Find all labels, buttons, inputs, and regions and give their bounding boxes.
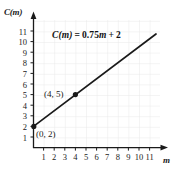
x-tick-label-11: 11 (144, 153, 156, 162)
x-axis-label: m (163, 155, 170, 165)
point-label-4-5: (4, 5) (44, 89, 64, 99)
point-label-0-2: (0, 2) (36, 129, 56, 139)
linear-function-graph: C(m) m C(m)=0.75m+2 (0, 2) (4, 5) 1 2 3 … (0, 0, 177, 175)
y-tick-label-7: 7 (13, 70, 27, 79)
y-tick-label-3: 3 (13, 112, 27, 121)
y-tick-label-10: 10 (13, 38, 27, 47)
y-tick-label-4: 4 (13, 102, 27, 111)
y-tick-label-5: 5 (13, 91, 27, 100)
equation-slope: 0.75 (82, 30, 99, 40)
y-tick-label-8: 8 (13, 59, 27, 68)
equation-intercept: 2 (116, 30, 121, 40)
y-tick-label-2: 2 (13, 123, 27, 132)
y-tick-label-6: 6 (13, 81, 27, 90)
y-tick-label-9: 9 (13, 49, 27, 58)
y-tick-label-1: 1 (13, 134, 27, 143)
data-point-4-5 (73, 92, 78, 97)
equation-function-name: C(m) (52, 30, 72, 40)
equation-plus: + (109, 30, 115, 40)
equation-equals: = (74, 30, 80, 40)
y-tick-label-11: 11 (13, 28, 27, 37)
equation-variable: m (99, 30, 107, 40)
equation-annotation: C(m)=0.75m+2 (52, 30, 121, 40)
y-axis-label: C(m) (4, 7, 22, 17)
